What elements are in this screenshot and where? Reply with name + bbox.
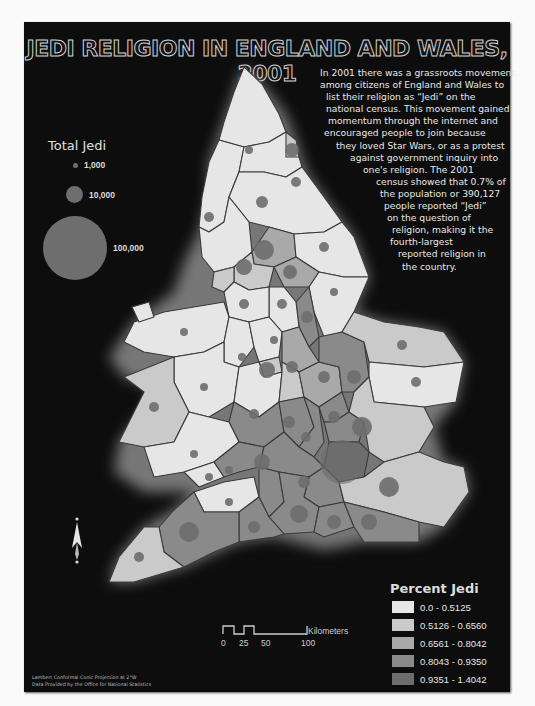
total-jedi-legend-item: 100,000 — [43, 216, 144, 280]
total-jedi-legend-title: Total Jedi — [48, 138, 106, 153]
class-label: 0.5126 - 0.6560 — [420, 620, 487, 631]
scale-tick-label: 0 — [221, 638, 226, 648]
percent-jedi-legend-title: Percent Jedi — [390, 581, 479, 596]
percent-jedi-legend-item: 0.8043 - 0.9350 — [392, 655, 487, 667]
class-label: 0.6561 - 0.8042 — [420, 638, 487, 649]
bubble-symbol — [43, 216, 107, 280]
swatch — [392, 655, 414, 667]
class-label: 0.8043 - 0.9350 — [420, 656, 487, 667]
north-arrow-icon — [68, 516, 86, 566]
intro-line: one's religion. The 2001 — [363, 164, 510, 176]
percent-jedi-legend-item: 0.6561 - 0.8042 — [392, 637, 487, 649]
intro-line: religion, making it the — [392, 224, 510, 236]
bubble-symbol — [66, 186, 83, 203]
intro-line: fourth-largest — [390, 236, 510, 248]
intro-line: the population or 390,127 — [380, 188, 510, 200]
intro-paragraph: In 2001 there was a grassroots movement … — [320, 67, 510, 273]
intro-line: on the question of — [387, 212, 510, 224]
percent-jedi-legend-item: 0.5126 - 0.6560 — [392, 619, 487, 631]
map-panel: JEDI RELIGION IN ENGLAND AND WALES, 2001 — [24, 22, 510, 692]
intro-line: reported religion in — [398, 248, 510, 260]
scale-unit-label: Kilometers — [308, 626, 348, 636]
intro-line: encouraged people to join because — [324, 127, 510, 139]
bubble-label: 1,000 — [84, 160, 105, 170]
intro-line: the country. — [402, 261, 510, 273]
map-credits: Lambert Conformal Conic Projection at 2°… — [32, 674, 151, 688]
percent-jedi-legend-item: 0.0 - 0.5125 — [392, 601, 471, 613]
class-label: 0.9351 - 1.4042 — [420, 674, 487, 685]
swatch — [392, 601, 414, 613]
scale-bar — [222, 624, 322, 638]
bubble-label: 100,000 — [113, 243, 144, 253]
total-jedi-legend-item: 1,000 — [73, 160, 105, 170]
intro-line: among citizens of England and Wales to — [320, 79, 510, 91]
intro-line: In 2001 there was a grassroots movement — [320, 67, 510, 79]
intro-line: census showed that 0.7% of — [376, 176, 510, 188]
intro-line: national census. This movement gained — [326, 103, 510, 115]
data-source-note: Data Provided by the Office for National… — [32, 681, 151, 688]
scale-tick-label: 50 — [261, 638, 270, 648]
bubble-label: 10,000 — [89, 190, 115, 200]
intro-line: against government inquiry into — [350, 152, 510, 164]
percent-jedi-legend-item: 0.9351 - 1.4042 — [392, 673, 487, 685]
swatch — [392, 619, 414, 631]
intro-line: list their religion as “Jedi” on the — [326, 91, 510, 103]
intro-line: momentum through the internet and — [328, 115, 510, 127]
class-label: 0.0 - 0.5125 — [420, 602, 471, 613]
scale-tick-label: 100 — [301, 638, 315, 648]
scale-tick-label: 25 — [239, 638, 248, 648]
projection-note: Lambert Conformal Conic Projection at 2°… — [32, 674, 151, 681]
swatch — [392, 637, 414, 649]
total-jedi-legend-item: 10,000 — [66, 186, 115, 203]
bubble-symbol — [73, 163, 78, 168]
intro-line: people reported “Jedi” — [384, 200, 510, 212]
intro-line: they loved Star Wars, or as a protest — [336, 140, 510, 152]
swatch — [392, 673, 414, 685]
